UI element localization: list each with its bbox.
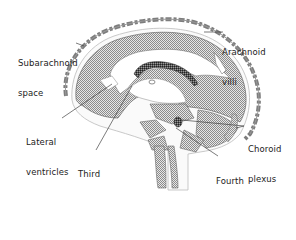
label-lateral-ventricles: Lateral ventricles [26, 117, 69, 187]
label-arachnoid-villi: Arachnoid villi [222, 27, 266, 97]
label-subarachnoid-space: Subarachnoid space [18, 38, 78, 108]
spinal-cord [154, 146, 166, 188]
fourth-ventricle-plexus [174, 117, 182, 127]
label-fourth-ventricle: Fourth ventricle [216, 156, 254, 198]
label-third-ventricle: Third ventricle [78, 149, 116, 198]
